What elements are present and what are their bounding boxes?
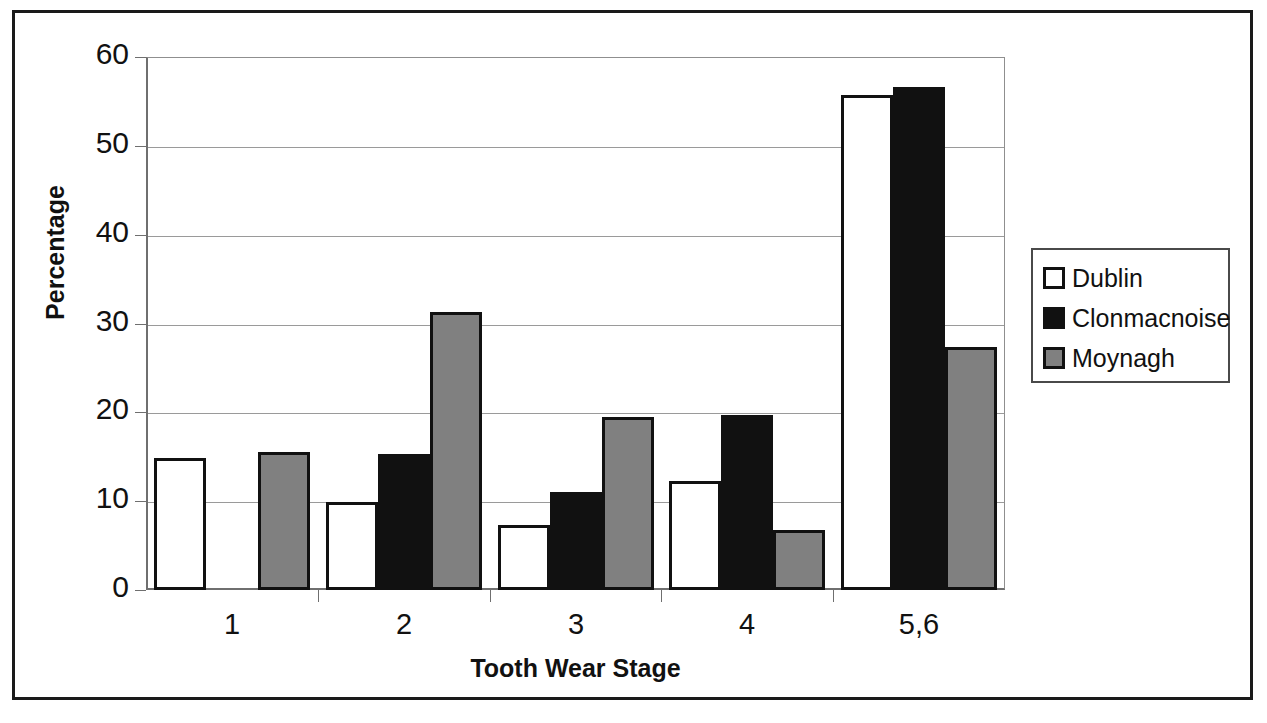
x-axis-tick-mark <box>318 590 319 602</box>
bar-moynagh-stage-1 <box>258 452 310 590</box>
bar-clonmacnoise-stage-2 <box>378 454 430 590</box>
y-axis-tick-mark <box>135 57 146 58</box>
legend-item-clonmacnoise: Clonmacnoise <box>1043 298 1228 338</box>
x-axis-tick-label: 3 <box>490 608 662 641</box>
bar-moynagh-stage-5-6 <box>945 347 997 590</box>
y-axis-title: Percentage <box>41 138 70 368</box>
legend-item-label: Moynagh <box>1072 346 1175 371</box>
bar-dublin-stage-2 <box>326 502 378 590</box>
y-axis-tick-label: 50 <box>67 126 129 160</box>
bar-clonmacnoise-stage-4 <box>721 415 773 590</box>
x-axis-tick-label: 5,6 <box>833 608 1005 641</box>
y-axis-tick-label: 40 <box>67 215 129 249</box>
x-axis-tick-mark <box>490 590 491 602</box>
y-axis-tick-label: 10 <box>67 481 129 515</box>
x-axis-title: Tooth Wear Stage <box>146 654 1005 683</box>
bar-dublin-stage-4 <box>669 481 721 590</box>
chart-figure: 0102030405060 Percentage 12345,6 Tooth W… <box>0 0 1267 723</box>
bar-clonmacnoise-stage-3 <box>550 492 602 590</box>
y-axis-tick-label: 20 <box>67 392 129 426</box>
y-axis-tick-mark <box>135 235 146 236</box>
y-axis-tick-label: 0 <box>67 570 129 604</box>
bar-clonmacnoise-stage-5-6 <box>893 87 945 590</box>
legend-item-dublin: Dublin <box>1043 258 1228 298</box>
legend-swatch-icon <box>1043 267 1065 289</box>
bar-moynagh-stage-2 <box>430 312 482 590</box>
bar-moynagh-stage-3 <box>602 417 654 590</box>
x-axis-tick-label: 1 <box>146 608 318 641</box>
y-axis-tick-mark <box>135 590 146 591</box>
y-axis-tick-label: 30 <box>67 304 129 338</box>
x-axis-tick-label: 4 <box>661 608 833 641</box>
bar-dublin-stage-5-6 <box>841 95 893 590</box>
legend-swatch-icon <box>1043 347 1065 369</box>
chart-legend: DublinClonmacnoiseMoynagh <box>1031 248 1230 383</box>
y-axis-tick-mark <box>135 412 146 413</box>
x-axis-tick-mark <box>661 590 662 602</box>
y-axis-tick-label: 60 <box>67 37 129 71</box>
legend-item-label: Dublin <box>1072 266 1143 291</box>
x-axis-tick-mark <box>833 590 834 602</box>
bar-dublin-stage-1 <box>154 458 206 590</box>
y-axis-tick-mark <box>135 146 146 147</box>
bar-dublin-stage-3 <box>498 525 550 590</box>
y-axis-tick-mark <box>135 324 146 325</box>
legend-item-moynagh: Moynagh <box>1043 338 1228 378</box>
x-axis-tick-label: 2 <box>318 608 490 641</box>
legend-swatch-icon <box>1043 307 1065 329</box>
bar-moynagh-stage-4 <box>773 530 825 590</box>
y-axis-tick-mark <box>135 501 146 502</box>
legend-item-label: Clonmacnoise <box>1072 306 1230 331</box>
